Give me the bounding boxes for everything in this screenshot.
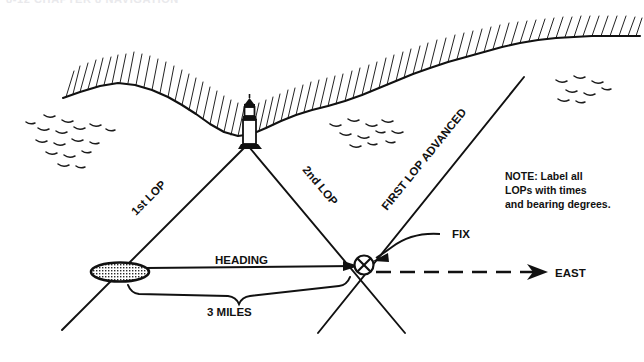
heading-label: HEADING xyxy=(215,254,268,266)
lop-advanced-line xyxy=(318,77,524,333)
distance-brace xyxy=(128,277,350,304)
fix-label: FIX xyxy=(452,228,470,240)
coastline-shape xyxy=(63,16,642,136)
lop-1-line xyxy=(62,147,245,330)
note-block: NOTE: Label all LOPs with times and bear… xyxy=(505,170,611,210)
east-label: EAST xyxy=(555,267,586,279)
fix-leader-arrow xyxy=(373,234,440,262)
water-ripples xyxy=(26,76,611,168)
svg-text:LOPs with times: LOPs with times xyxy=(505,184,587,196)
lop-1-label: 1st LOP xyxy=(129,178,168,217)
svg-text:and bearing degrees.: and bearing degrees. xyxy=(505,198,611,210)
distance-label: 3 MILES xyxy=(207,306,252,318)
fix-circle-x-icon xyxy=(355,256,374,275)
east-dashed-line xyxy=(376,264,548,280)
lop-2-label: 2nd LOP xyxy=(300,164,340,208)
ship-icon xyxy=(91,263,149,282)
navigation-diagram: 1st LOP 2nd LOP FIRST LOP ADVANCED HEADI… xyxy=(0,0,644,362)
lop-2-line xyxy=(249,147,405,333)
svg-text:NOTE: Label all: NOTE: Label all xyxy=(505,170,583,182)
